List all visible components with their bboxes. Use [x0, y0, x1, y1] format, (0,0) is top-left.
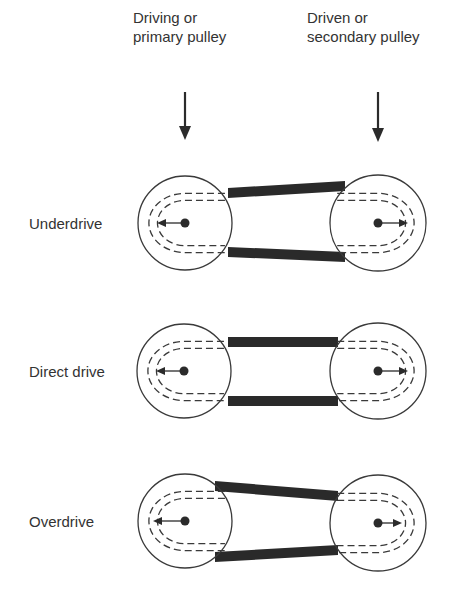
- down-arrow-left-icon: [179, 126, 191, 140]
- belt-top-row-2: [215, 481, 338, 501]
- radius-arrow-right-icon-row-2: [393, 519, 402, 527]
- belt-bot-row-1: [228, 396, 338, 406]
- radius-arrow-left-icon-row-1: [156, 367, 165, 375]
- belt-top-row-1: [228, 337, 338, 347]
- belt-bot-row-2: [215, 545, 338, 562]
- radius-arrow-right-icon-row-0: [399, 219, 408, 227]
- radius-arrow-right-icon-row-1: [399, 367, 408, 375]
- belt-top-row-0: [228, 181, 345, 198]
- radius-arrow-left-icon-row-0: [157, 219, 166, 227]
- belt-bot-row-0: [228, 247, 345, 262]
- down-arrow-right-icon: [372, 128, 384, 142]
- pulley-diagram: [0, 0, 469, 598]
